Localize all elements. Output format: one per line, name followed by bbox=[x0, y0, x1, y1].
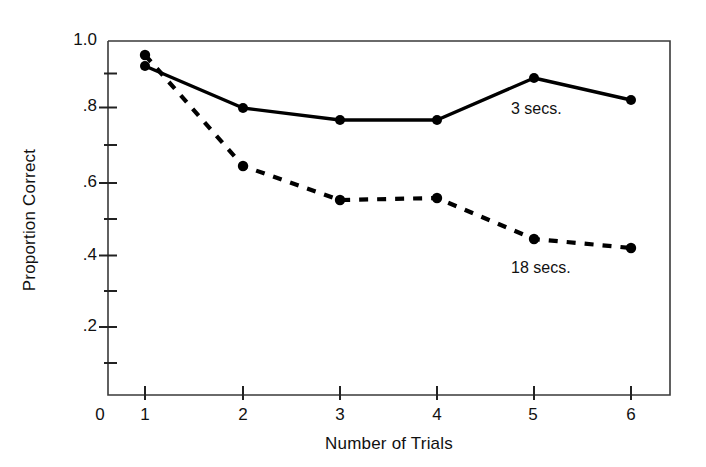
y-minor-ticks bbox=[104, 74, 117, 364]
chart-plot-area bbox=[0, 0, 706, 467]
series-markers-3-secs bbox=[140, 61, 636, 125]
chart-figure: Proportion Correct Number of Trials 1.0 … bbox=[0, 0, 706, 467]
series-markers-18-secs bbox=[140, 50, 636, 253]
plot-frame bbox=[108, 41, 670, 395]
series-line-3-secs bbox=[145, 66, 631, 120]
x-major-ticks bbox=[145, 386, 631, 400]
